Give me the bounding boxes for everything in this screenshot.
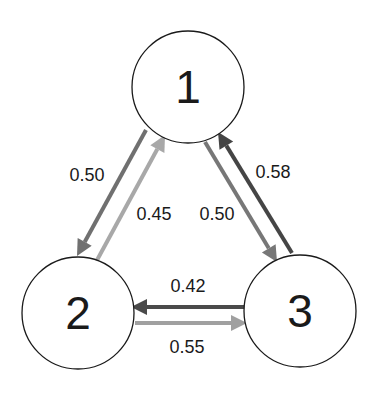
edge-1-to-3: 0.50 (199, 142, 277, 262)
edge-probability-label: 0.45 (136, 204, 171, 224)
edge-3-to-1: 0.58 (218, 132, 292, 253)
edge-2-to-3: 0.55 (135, 315, 247, 357)
state-node-2: 2 (22, 257, 134, 369)
state-node-1: 1 (132, 31, 244, 143)
edge-probability-label: 0.50 (199, 204, 234, 224)
node-label: 1 (175, 61, 201, 113)
state-node-3: 3 (244, 255, 356, 367)
edge-probability-label: 0.55 (169, 337, 204, 357)
edge-line (205, 142, 269, 248)
edge-probability-label: 0.50 (69, 165, 104, 185)
edge-probability-label: 0.42 (170, 276, 205, 296)
node-label: 3 (287, 285, 313, 337)
markov-chain-diagram: 0.500.450.500.580.420.55123 (0, 0, 377, 394)
edge-3-to-2: 0.42 (131, 276, 246, 315)
edge-probability-label: 0.58 (255, 162, 290, 182)
diagram-canvas: 0.500.450.500.580.420.55123 (0, 0, 377, 394)
node-label: 2 (65, 287, 91, 339)
